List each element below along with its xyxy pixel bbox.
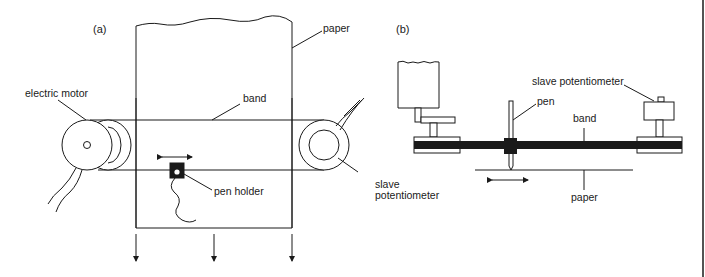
label-paper-b: paper xyxy=(571,192,598,203)
label-paper-a: paper xyxy=(323,23,350,34)
panel-a-label: (a) xyxy=(93,24,106,35)
band-bar xyxy=(414,141,682,149)
band-leader xyxy=(212,104,240,120)
pen-carriage xyxy=(504,138,517,154)
motor-shaft xyxy=(84,142,91,149)
label-pen: pen xyxy=(537,96,555,107)
chart-recorder-diagram xyxy=(0,0,705,277)
paper-leader xyxy=(292,31,322,48)
panel-a xyxy=(48,16,364,261)
pen-holder-leader xyxy=(184,174,212,190)
panel-b-label: (b) xyxy=(396,24,409,35)
label-slave-line2: potentiometer xyxy=(375,190,439,201)
potentiometer-wire xyxy=(340,98,364,130)
label-band-b: band xyxy=(573,113,596,124)
electric-motor-leader xyxy=(58,100,86,120)
pen-leader xyxy=(513,104,536,120)
motor-wire xyxy=(48,168,76,204)
label-electric-motor: electric motor xyxy=(25,88,88,99)
label-pen-holder: pen holder xyxy=(214,186,264,197)
slave-potentiometer-box xyxy=(644,102,674,120)
motor-block-side xyxy=(398,61,439,108)
slave-potentiometer-leader xyxy=(338,158,358,172)
pen-holder-wire xyxy=(171,178,196,222)
label-band-a: band xyxy=(243,93,266,104)
slave-potentiometer-inner xyxy=(309,130,339,160)
motor-wire xyxy=(56,170,82,212)
slave-potentiometer-leader-b xyxy=(624,85,654,101)
label-slave-potentiometer-b: slave potentiometer xyxy=(532,76,624,87)
